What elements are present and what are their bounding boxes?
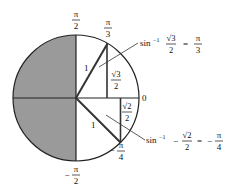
svg-text:4: 4 xyxy=(217,142,222,152)
svg-text:−1: −1 xyxy=(159,134,165,140)
svg-text:−: − xyxy=(109,145,114,155)
svg-text:π: π xyxy=(119,140,124,150)
hypotenuse-label-lower: 1 xyxy=(91,120,96,130)
svg-text:−: − xyxy=(64,170,69,180)
svg-text:√3: √3 xyxy=(167,33,176,43)
svg-text:π: π xyxy=(217,130,222,140)
svg-text:3: 3 xyxy=(196,45,201,55)
unit-circle-diagram: π 2 π 3 0 − π 4 − π 2 1 1 √3 2 √2 2 sin xyxy=(0,0,229,191)
svg-text:2: 2 xyxy=(169,45,173,55)
svg-text:π: π xyxy=(74,164,79,174)
annotation-arcsin-neg-sqrt2-over-2: sin −1 − √2 2 = − π 4 xyxy=(146,130,223,152)
side-label-sqrt2-over-2: √2 2 xyxy=(122,101,132,123)
svg-text:√2: √2 xyxy=(183,130,192,140)
svg-text:=: = xyxy=(183,39,188,49)
svg-text:−: − xyxy=(207,136,212,146)
svg-text:=: = xyxy=(197,136,202,146)
svg-text:2: 2 xyxy=(74,21,79,31)
svg-text:√2: √2 xyxy=(123,101,132,111)
svg-text:2: 2 xyxy=(125,113,129,123)
svg-text:sin: sin xyxy=(140,38,151,48)
svg-text:2: 2 xyxy=(185,142,189,152)
hypotenuse-pi-over-3 xyxy=(76,43,108,98)
svg-text:−: − xyxy=(173,136,178,146)
label-pi-over-3: π 3 xyxy=(104,17,112,39)
svg-text:π: π xyxy=(106,17,111,27)
label-neg-pi-over-2: − π 2 xyxy=(64,164,80,186)
annotation-arcsin-sqrt3-over-2: sin −1 √3 2 = π 3 xyxy=(140,33,202,55)
hypotenuse-label-upper: 1 xyxy=(84,63,89,73)
svg-text:−1: −1 xyxy=(153,37,159,43)
svg-text:π: π xyxy=(196,33,201,43)
svg-text:3: 3 xyxy=(106,29,111,39)
svg-text:2: 2 xyxy=(74,176,79,186)
label-zero: 0 xyxy=(142,93,147,103)
svg-text:π: π xyxy=(74,9,79,19)
label-neg-pi-over-4: − π 4 xyxy=(109,140,125,162)
label-pi-over-2: π 2 xyxy=(72,9,80,31)
svg-text:2: 2 xyxy=(114,81,118,91)
svg-text:√3: √3 xyxy=(112,69,121,79)
side-label-sqrt3-over-2: √3 2 xyxy=(111,69,121,91)
svg-text:4: 4 xyxy=(119,152,124,162)
svg-text:sin: sin xyxy=(146,135,157,145)
